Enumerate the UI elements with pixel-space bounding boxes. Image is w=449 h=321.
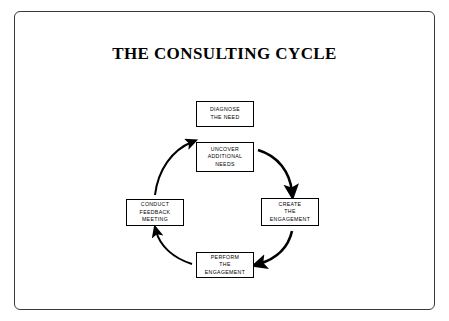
arrow-conduct-to-diagnose	[155, 142, 192, 195]
node-diagnose-the-need[interactable]: DIAGNOSE THE NEED	[196, 101, 254, 127]
node-uncover-additional-needs[interactable]: UNCOVER ADDITIONAL NEEDS	[196, 142, 254, 172]
node-line: CONDUCT	[141, 201, 169, 209]
node-line: THE NEED	[210, 114, 239, 122]
slide-canvas: THE CONSULTING CYCLE DIAGNOSE THE NEED U…	[0, 0, 449, 321]
node-create-the-engagement[interactable]: CREATE THE ENGAGEMENT	[261, 198, 319, 226]
node-conduct-feedback-meeting[interactable]: CONDUCT FEEDBACK MEETING	[126, 199, 184, 226]
node-line: NEEDS	[215, 161, 235, 169]
node-line: PERFORM	[211, 254, 239, 262]
node-perform-the-engagement[interactable]: PERFORM THE ENGAGEMENT	[196, 252, 254, 278]
node-line: THE	[284, 208, 295, 216]
node-line: MEETING	[142, 216, 168, 224]
node-line: UNCOVER	[211, 146, 239, 154]
node-line: ENGAGEMENT	[270, 216, 310, 224]
arrow-create-to-perform	[259, 231, 292, 264]
node-line: CREATE	[279, 201, 302, 209]
node-line: FEEDBACK	[140, 209, 171, 217]
node-line: DIAGNOSE	[210, 106, 240, 114]
arrow-perform-to-conduct	[156, 231, 192, 264]
node-line: THE	[219, 261, 230, 269]
node-line: ENGAGEMENT	[205, 269, 245, 277]
arrow-uncover-to-create	[258, 150, 292, 192]
node-line: ADDITIONAL	[208, 153, 243, 161]
